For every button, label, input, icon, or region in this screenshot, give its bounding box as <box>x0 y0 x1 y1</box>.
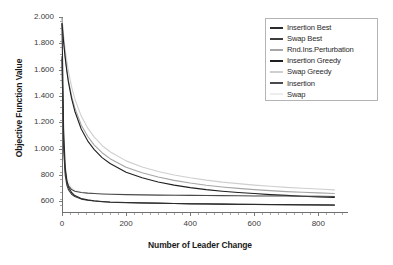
x-tick-label: 600 <box>234 219 274 228</box>
y-tick-label: 1.200 <box>20 117 54 126</box>
y-tick-label: 1.800 <box>20 38 54 47</box>
x-tick-minor-mark <box>326 213 327 215</box>
x-tick-minor-mark <box>78 213 79 215</box>
x-tick-minor-mark <box>206 213 207 215</box>
x-tick-minor-mark <box>302 213 303 215</box>
x-tick-minor-mark <box>262 213 263 215</box>
x-tick-minor-mark <box>70 213 71 215</box>
x-tick-minor-mark <box>294 213 295 215</box>
legend-item[interactable]: Insertion <box>270 77 377 88</box>
x-tick-minor-mark <box>342 213 343 215</box>
legend-label: Insertion Best <box>287 23 331 32</box>
chart-container: Objective Function Value Number of Leade… <box>0 0 393 265</box>
x-tick-minor-mark <box>222 213 223 215</box>
y-tick-label: 600 <box>20 196 54 205</box>
legend-line-swatch <box>270 38 283 40</box>
x-tick-mark <box>62 213 63 216</box>
x-tick-minor-mark <box>174 213 175 215</box>
x-tick-minor-mark <box>286 213 287 215</box>
x-tick-minor-mark <box>246 213 247 215</box>
legend-label: Rnd.Ins.Perturbation <box>287 45 354 54</box>
x-tick-mark <box>254 213 255 216</box>
x-tick-label: 200 <box>106 219 146 228</box>
legend-item[interactable]: Swap Best <box>270 33 377 44</box>
x-tick-mark <box>318 213 319 216</box>
x-tick-minor-mark <box>214 213 215 215</box>
x-tick-label: 400 <box>170 219 210 228</box>
legend-line-swatch <box>270 93 283 95</box>
legend-line-swatch <box>270 60 283 62</box>
x-tick-minor-mark <box>278 213 279 215</box>
x-tick-minor-mark <box>198 213 199 215</box>
legend-item[interactable]: Insertion Best <box>270 22 377 33</box>
x-tick-minor-mark <box>150 213 151 215</box>
y-tick-label: 2.000 <box>20 12 54 21</box>
x-tick-minor-mark <box>310 213 311 215</box>
y-axis-title: Objective Function Value <box>14 28 24 188</box>
x-tick-minor-mark <box>182 213 183 215</box>
y-tick-label: 800 <box>20 170 54 179</box>
y-tick-label: 1.000 <box>20 144 54 153</box>
x-tick-minor-mark <box>238 213 239 215</box>
x-tick-minor-mark <box>158 213 159 215</box>
legend-item[interactable]: Rnd.Ins.Perturbation <box>270 44 377 55</box>
y-tick-label: 1.600 <box>20 65 54 74</box>
legend-item[interactable]: Swap Greedy <box>270 66 377 77</box>
x-tick-minor-mark <box>102 213 103 215</box>
x-tick-minor-mark <box>166 213 167 215</box>
legend-item[interactable]: Insertion Greedy <box>270 55 377 66</box>
x-axis-ticks <box>62 213 348 216</box>
x-tick-minor-mark <box>86 213 87 215</box>
x-tick-minor-mark <box>142 213 143 215</box>
x-tick-minor-mark <box>94 213 95 215</box>
legend-line-swatch <box>270 71 283 73</box>
x-tick-minor-mark <box>110 213 111 215</box>
legend-label: Swap Best <box>287 34 322 43</box>
legend-line-swatch <box>270 27 283 29</box>
x-tick-label: 0 <box>42 219 82 228</box>
x-tick-minor-mark <box>270 213 271 215</box>
chart-legend: Insertion BestSwap BestRnd.Ins.Perturbat… <box>265 18 378 101</box>
x-tick-minor-mark <box>118 213 119 215</box>
x-tick-mark <box>126 213 127 216</box>
legend-label: Swap Greedy <box>287 67 331 76</box>
y-tick-label: 1.400 <box>20 91 54 100</box>
legend-label: Insertion Greedy <box>287 56 341 65</box>
x-tick-mark <box>190 213 191 216</box>
legend-line-swatch <box>270 49 283 51</box>
legend-line-swatch <box>270 82 283 84</box>
x-tick-minor-mark <box>334 213 335 215</box>
x-tick-minor-mark <box>230 213 231 215</box>
legend-label: Swap <box>287 90 305 99</box>
x-axis-title: Number of Leader Change <box>60 240 340 250</box>
x-tick-minor-mark <box>134 213 135 215</box>
legend-item[interactable]: Swap <box>270 89 377 100</box>
legend-label: Insertion <box>287 79 315 88</box>
x-tick-label: 800 <box>298 219 338 228</box>
